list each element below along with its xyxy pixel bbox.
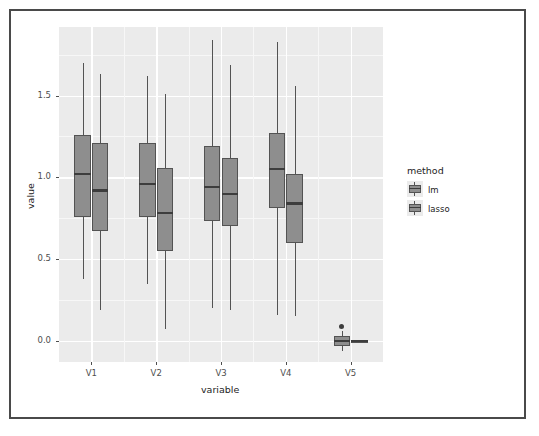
x-axis-tick-label: V5 bbox=[342, 368, 360, 378]
boxplot-outlier bbox=[339, 324, 344, 329]
legend-key-swatch bbox=[407, 200, 423, 216]
whisker-upper bbox=[212, 40, 213, 146]
plot-panel bbox=[59, 27, 383, 362]
whisker-upper bbox=[165, 94, 166, 168]
whisker-upper bbox=[147, 76, 148, 143]
whisker-lower bbox=[230, 226, 231, 309]
y-axis-tick-label: 1.0 bbox=[37, 171, 51, 181]
whisker-upper bbox=[83, 63, 84, 135]
boxplot-box bbox=[269, 133, 286, 208]
x-axis-tick-label: V4 bbox=[277, 368, 295, 378]
boxplot-median bbox=[269, 168, 286, 170]
boxplot-box bbox=[204, 146, 221, 221]
y-axis-title: value bbox=[25, 183, 36, 209]
y-axis-tick-mark bbox=[56, 177, 59, 178]
boxplot-median bbox=[222, 193, 239, 195]
boxplot-figure: 0.00.51.01.5V1V2V3V4V5 value variable me… bbox=[11, 11, 524, 417]
whisker-lower bbox=[295, 243, 296, 317]
y-axis-tick-label: 0.0 bbox=[37, 335, 51, 345]
x-axis-tick-mark bbox=[286, 362, 287, 365]
boxplot-median bbox=[139, 183, 156, 185]
whisker-lower bbox=[342, 346, 343, 351]
gridline-x-minor bbox=[124, 27, 125, 362]
boxplot-median bbox=[204, 186, 221, 188]
whisker-lower bbox=[212, 221, 213, 308]
whisker-lower bbox=[100, 231, 101, 309]
legend-label: lm bbox=[428, 185, 439, 195]
whisker-lower bbox=[165, 251, 166, 329]
x-axis-tick-label: V1 bbox=[82, 368, 100, 378]
y-axis-tick-label: 0.5 bbox=[37, 253, 51, 263]
boxplot-box bbox=[157, 168, 174, 251]
whisker-upper bbox=[230, 65, 231, 158]
x-axis-tick-mark bbox=[91, 362, 92, 365]
boxplot-median bbox=[286, 202, 303, 204]
legend-title: method bbox=[407, 165, 444, 176]
gridline-x-major bbox=[351, 27, 352, 362]
y-axis-tick-mark bbox=[56, 96, 59, 97]
boxplot-box bbox=[139, 143, 156, 217]
gridline-x-minor bbox=[253, 27, 254, 362]
x-axis-tick-mark bbox=[351, 362, 352, 365]
boxplot-box bbox=[74, 135, 91, 217]
gridline-x-minor bbox=[318, 27, 319, 362]
whisker-upper bbox=[295, 86, 296, 174]
x-axis-title: variable bbox=[201, 384, 239, 395]
whisker-lower bbox=[277, 208, 278, 314]
y-axis-tick-mark bbox=[56, 341, 59, 342]
boxplot-box bbox=[286, 174, 303, 243]
x-axis-tick-label: V3 bbox=[212, 368, 230, 378]
whisker-upper bbox=[100, 74, 101, 143]
whisker-upper bbox=[277, 42, 278, 134]
x-axis-tick-mark bbox=[156, 362, 157, 365]
whisker-lower bbox=[83, 217, 84, 279]
y-axis-tick-label: 1.5 bbox=[37, 90, 51, 100]
figure-frame: 0.00.51.01.5V1V2V3V4V5 value variable me… bbox=[9, 9, 526, 419]
boxplot-median bbox=[92, 189, 109, 191]
y-axis-tick-mark bbox=[56, 259, 59, 260]
x-axis-tick-mark bbox=[221, 362, 222, 365]
boxplot-median bbox=[334, 340, 351, 342]
whisker-lower bbox=[147, 217, 148, 284]
gridline-x-minor bbox=[189, 27, 190, 362]
legend-label: lasso bbox=[428, 204, 450, 214]
boxplot-box bbox=[92, 143, 109, 231]
legend-key-swatch bbox=[407, 181, 423, 197]
boxplot-median bbox=[74, 173, 91, 175]
boxplot-median bbox=[351, 340, 368, 342]
x-axis-tick-label: V2 bbox=[147, 368, 165, 378]
boxplot-median bbox=[157, 212, 174, 214]
